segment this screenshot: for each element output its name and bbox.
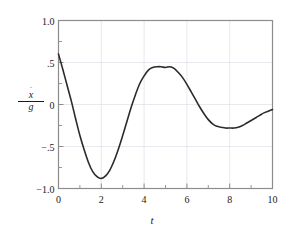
x-tick-label: 6 [184, 194, 189, 205]
x-tick-label: 2 [99, 194, 104, 205]
x-tick-label: 4 [142, 194, 147, 205]
x-tick-label: 10 [268, 194, 278, 205]
grid-lines [59, 21, 273, 189]
y-tick-label: 0 [10, 99, 55, 110]
minor-tick-marks [59, 42, 252, 189]
x-tick-label: 8 [227, 194, 232, 205]
y-tick-label: −1.0 [10, 183, 55, 194]
y-tick-label: .5 [10, 57, 55, 68]
figure-container: ¨x g t 1.0.50−.5−1.00246810 [0, 0, 290, 236]
x-tick-label: 0 [56, 194, 61, 205]
y-tick-label: −.5 [10, 141, 55, 152]
data-curve [59, 54, 273, 178]
y-tick-label: 1.0 [10, 15, 55, 26]
